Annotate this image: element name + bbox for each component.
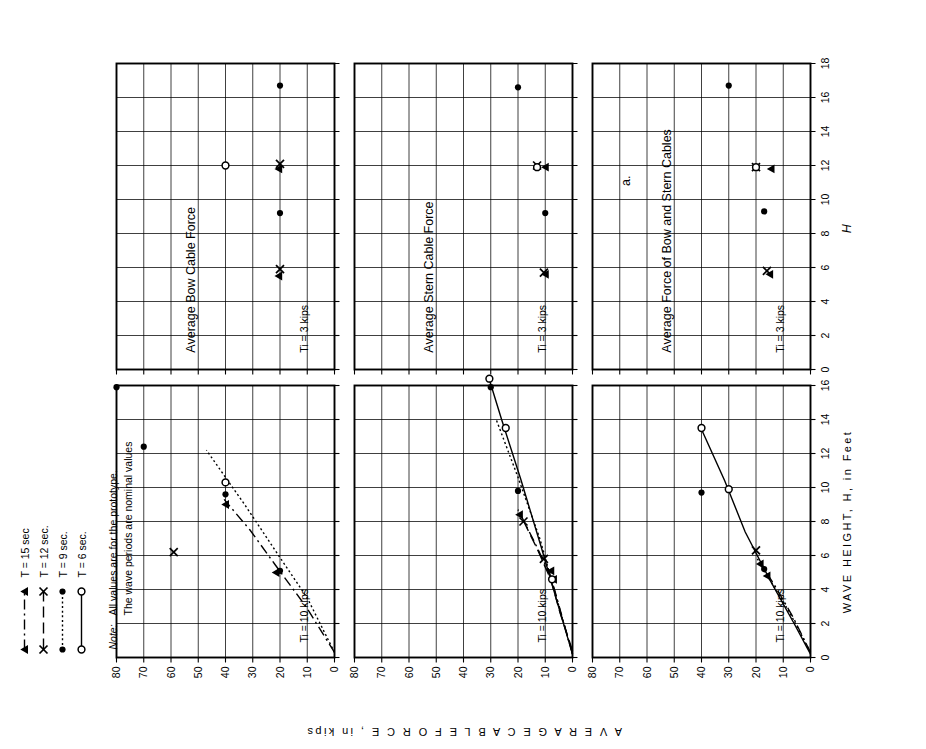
x-tick-label: 14 bbox=[818, 125, 830, 137]
marker-filled-dot bbox=[514, 487, 520, 493]
marker-x bbox=[276, 265, 284, 273]
x-tick-label: 12 bbox=[818, 159, 830, 171]
marker-filled-dot bbox=[59, 646, 65, 652]
series-2 bbox=[169, 548, 177, 556]
x-tick-label: 12 bbox=[818, 447, 830, 459]
x-tick-label: 16 bbox=[818, 91, 830, 103]
y-axis-title: A V E R A G E C A B L E F O R C E , in k… bbox=[305, 725, 622, 737]
marker-open-circle bbox=[752, 163, 759, 170]
x-tick-label: 0 bbox=[818, 654, 830, 660]
x-tick-label: 6 bbox=[818, 552, 830, 558]
series-3 bbox=[487, 384, 572, 654]
marker-open-circle bbox=[222, 479, 229, 486]
x-tick-label: 6 bbox=[818, 264, 830, 270]
marker-filled-dot bbox=[276, 209, 282, 215]
y-tick-label: 30 bbox=[484, 666, 496, 678]
marker-x bbox=[169, 548, 177, 556]
y-tick-label: 0 bbox=[566, 666, 578, 672]
marker-filled-dot bbox=[761, 208, 767, 214]
y-tick-label: 20 bbox=[273, 666, 285, 678]
marker-triangle bbox=[20, 587, 28, 596]
y-tick-label: 60 bbox=[640, 666, 652, 678]
panel-both-c10: Ti = 10 kips0246810121416010203040506070… bbox=[586, 379, 831, 678]
marker-filled-dot bbox=[276, 82, 282, 88]
figure-part-label: a. bbox=[618, 175, 632, 185]
x-tick-label: 0 bbox=[818, 366, 830, 372]
marker-filled-dot bbox=[514, 84, 520, 90]
series-4 bbox=[485, 375, 572, 654]
x-tick-label: 14 bbox=[818, 413, 830, 425]
marker-open-circle bbox=[502, 424, 509, 431]
series-4 bbox=[752, 163, 759, 170]
marker-triangle bbox=[20, 645, 28, 654]
y-tick-label: 0 bbox=[804, 666, 816, 672]
panel-condition-label: Ti = 10 kips bbox=[536, 588, 548, 642]
marker-filled-dot bbox=[542, 209, 548, 215]
rotated-figure-container: Ti = 10 kips01020304050607080Ti = 3 kips… bbox=[0, 0, 926, 749]
cable-force-figure: Ti = 10 kips01020304050607080Ti = 3 kips… bbox=[0, 0, 926, 749]
legend-label: T = 12 sec. bbox=[37, 525, 49, 577]
panel-condition-label: Ti = 10 kips bbox=[298, 588, 310, 642]
y-tick-label: 50 bbox=[191, 666, 203, 678]
marker-open-circle bbox=[533, 163, 540, 170]
legend: T = 15 secT = 12 sec.T = 9 sec.T = 6 sec… bbox=[18, 525, 87, 653]
marker-filled-dot bbox=[222, 491, 228, 497]
x-tick-label: 4 bbox=[818, 298, 830, 304]
note-line-2: The wave periods are nominal values bbox=[121, 441, 133, 615]
y-tick-label: 70 bbox=[613, 666, 625, 678]
marker-open-circle bbox=[725, 485, 732, 492]
note-line-1: All values are for the prototype. bbox=[106, 470, 118, 615]
y-tick-label: 80 bbox=[586, 666, 598, 678]
series-4 bbox=[222, 479, 229, 486]
y-tick-label: 80 bbox=[110, 666, 122, 678]
marker-filled-dot bbox=[698, 489, 704, 495]
panel-title: Average Force of Bow and Stern Cables bbox=[659, 129, 673, 353]
x-axis-symbol: H bbox=[839, 223, 853, 233]
y-tick-label: 10 bbox=[776, 666, 788, 678]
panel-bow-c3: Ti = 3 kipsAverage Bow Cable Force bbox=[116, 63, 339, 374]
x-tick-label: 10 bbox=[818, 481, 830, 493]
y-tick-label: 70 bbox=[375, 666, 387, 678]
series-3 bbox=[276, 82, 282, 216]
panel-both-c3: Ti = 3 kipsAverage Force of Bow and Ster… bbox=[592, 57, 830, 374]
x-axis-title: WAVE HEIGHT, H, in Feet bbox=[840, 429, 852, 613]
marker-filled-dot bbox=[140, 443, 146, 449]
series-2 bbox=[752, 163, 771, 275]
note-word: Note: bbox=[106, 624, 118, 649]
panel-condition-label: Ti = 3 kips bbox=[298, 304, 310, 352]
series-curve bbox=[488, 375, 573, 654]
legend-label: T = 15 sec bbox=[18, 528, 30, 577]
y-tick-label: 60 bbox=[164, 666, 176, 678]
y-tick-label: 10 bbox=[300, 666, 312, 678]
panel-stern-c10: Ti = 10 kips01020304050607080 bbox=[348, 375, 578, 678]
y-tick-label: 20 bbox=[511, 666, 523, 678]
y-tick-label: 50 bbox=[429, 666, 441, 678]
marker-open-circle bbox=[485, 375, 492, 382]
panel-title: Average Bow Cable Force bbox=[183, 206, 197, 352]
y-tick-label: 40 bbox=[695, 666, 707, 678]
panel-condition-label: Ti = 10 kips bbox=[774, 588, 786, 642]
series-3 bbox=[514, 84, 547, 216]
x-tick-label: 8 bbox=[818, 518, 830, 524]
series-1 bbox=[541, 162, 549, 278]
y-tick-label: 30 bbox=[246, 666, 258, 678]
y-tick-label: 70 bbox=[137, 666, 149, 678]
marker-filled-dot bbox=[113, 384, 119, 390]
x-tick-label: 4 bbox=[818, 586, 830, 592]
panel-stern-c3: Ti = 3 kipsAverage Stern Cable Force bbox=[354, 63, 577, 374]
y-tick-label: 40 bbox=[219, 666, 231, 678]
y-tick-label: 0 bbox=[328, 666, 340, 672]
series-3 bbox=[725, 82, 767, 214]
marker-filled-dot bbox=[725, 82, 731, 88]
figure-canvas: Ti = 10 kips01020304050607080Ti = 3 kips… bbox=[0, 0, 926, 749]
x-tick-label: 18 bbox=[818, 57, 830, 69]
series-3 bbox=[698, 489, 810, 652]
series-curve bbox=[496, 419, 572, 654]
y-tick-label: 30 bbox=[722, 666, 734, 678]
y-tick-label: 10 bbox=[538, 666, 550, 678]
legend-label: T = 6 sec. bbox=[75, 531, 87, 577]
marker-open-circle bbox=[78, 646, 85, 653]
marker-open-circle bbox=[78, 588, 85, 595]
x-tick-label: 2 bbox=[818, 332, 830, 338]
panel-title: Average Stern Cable Force bbox=[421, 201, 435, 352]
